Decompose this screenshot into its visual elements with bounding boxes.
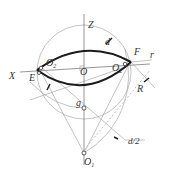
label-o1: O1 bbox=[84, 156, 94, 168]
label-d-half: d/2 bbox=[128, 136, 140, 146]
label-f: F bbox=[133, 46, 141, 57]
label-o: O bbox=[80, 66, 87, 77]
point-o2-left bbox=[39, 66, 43, 70]
label-x: X bbox=[8, 70, 16, 81]
label-d: d bbox=[105, 36, 111, 47]
point-o2-right bbox=[123, 62, 127, 66]
label-r: r bbox=[150, 49, 154, 60]
geometry-diagram: Z X E F O d r R g d/2 O2 O2 O1 bbox=[0, 0, 170, 172]
r-extension-line bbox=[131, 60, 152, 62]
label-z: Z bbox=[88, 19, 94, 30]
label-o2-right: O2 bbox=[112, 62, 122, 74]
point-g bbox=[82, 106, 86, 110]
diagram-svg: Z X E F O d r R g d/2 O2 O2 O1 bbox=[0, 0, 170, 172]
line-o1-left bbox=[39, 68, 84, 153]
point-e bbox=[38, 72, 41, 75]
point-o1 bbox=[82, 151, 86, 155]
label-g: g bbox=[76, 97, 81, 108]
label-e: E bbox=[28, 72, 35, 83]
left-dim-arrow bbox=[47, 84, 50, 90]
diagonal-line-left bbox=[40, 66, 125, 140]
label-R: R bbox=[136, 83, 143, 94]
d-half-arrow bbox=[114, 137, 118, 139]
